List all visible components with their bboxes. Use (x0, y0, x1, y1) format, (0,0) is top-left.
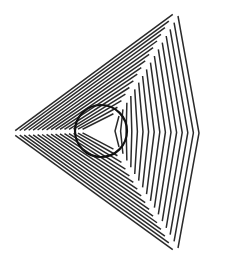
upper-left-line (42, 54, 149, 130)
upper-left-line (24, 28, 165, 131)
right-chevron-line (131, 96, 132, 167)
upper-left-line (51, 68, 141, 130)
illusion-canvas (0, 0, 229, 263)
right-chevron-line (170, 29, 188, 234)
upper-left-line (38, 48, 153, 130)
lower-left-line (42, 134, 149, 209)
lower-left-line-group (15, 133, 173, 250)
illusion-figure: Nested triangle line illusion with circl… (0, 0, 229, 263)
right-chevron-line (135, 89, 138, 174)
right-chevron-line (115, 116, 119, 147)
right-chevron-line (147, 69, 155, 194)
right-chevron-line (166, 36, 182, 228)
upper-left-line-group (15, 14, 173, 130)
right-chevron-line (139, 83, 143, 181)
right-chevron-line (162, 43, 176, 221)
right-chevron-line (178, 16, 199, 248)
